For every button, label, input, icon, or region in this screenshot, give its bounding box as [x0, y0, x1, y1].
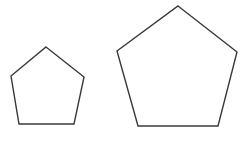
figure-canvas: [0, 0, 243, 142]
pentagons-figure: [0, 0, 243, 142]
